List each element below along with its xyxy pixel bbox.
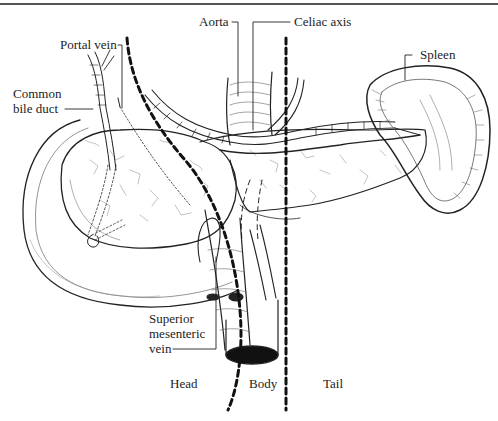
- label-tail: Tail: [323, 376, 343, 391]
- vessel-cut-end-left: [207, 294, 219, 300]
- label-common-bile-duct-2: bile duct: [13, 101, 58, 116]
- label-celiac-axis: Celiac axis: [294, 14, 351, 29]
- upper-artery-branch: [268, 78, 298, 130]
- vessel-cut-end-right: [229, 293, 243, 301]
- anatomy-figure: Aorta Celiac axis Portal vein Common bil…: [0, 0, 498, 421]
- label-portal-vein: Portal vein: [60, 37, 117, 52]
- label-body: Body: [249, 376, 277, 391]
- label-spleen: Spleen: [420, 47, 455, 62]
- label-smv-1: Superior: [149, 311, 194, 326]
- label-smv-3: vein: [149, 341, 171, 356]
- leader-aorta: [232, 22, 238, 96]
- label-head: Head: [170, 376, 197, 391]
- pancreas-head-outline: [61, 129, 236, 248]
- label-smv-2: mesenteric: [149, 326, 205, 341]
- superior-mesenteric-vein: [205, 210, 225, 350]
- label-aorta: Aorta: [199, 14, 229, 29]
- aorta-cut-end: [226, 346, 278, 364]
- label-common-bile-duct-1: Common: [13, 86, 61, 101]
- pancreas-illustration: [0, 0, 498, 421]
